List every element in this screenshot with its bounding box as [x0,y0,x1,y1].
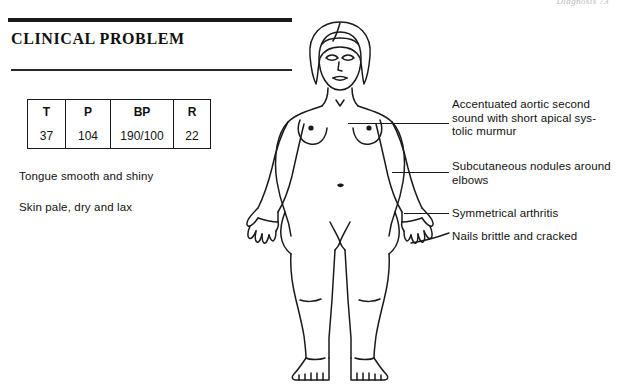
annotation-line: Subcutaneous nodules around [452,160,620,174]
annotation-nails-brittle: Nails brittle and cracked [452,230,620,244]
leader-line-nails-brittle [0,0,627,392]
annotation-line: sound with short apical sys- [452,112,620,126]
annotation-line: tolic murmur [452,125,620,139]
annotation-line: Accentuated aortic second [452,98,620,112]
annotation-line: Symmetrical arthritis [452,207,620,221]
textbook-page: Diagnosis 73 CLINICAL PROBLEM T P BP R 3… [0,0,627,392]
annotation-subcutaneous-nodules: Subcutaneous nodules around elbows [452,160,620,187]
annotation-aortic-sound: Accentuated aortic second sound with sho… [452,98,620,139]
annotation-line: Nails brittle and cracked [452,230,620,244]
annotation-symmetrical-arthritis: Symmetrical arthritis [452,207,620,221]
annotation-line: elbows [452,174,620,188]
